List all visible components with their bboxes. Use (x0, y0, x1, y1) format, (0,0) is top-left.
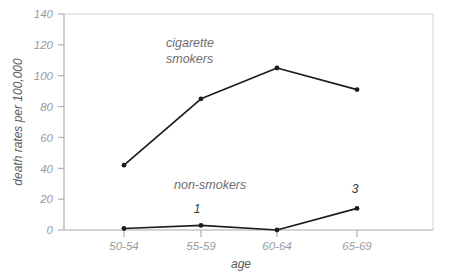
non-smokers-point-50-54 (122, 226, 127, 231)
line-chart-canvas: 0 20 40 60 80 100 120 140 50-54 55-59 60… (0, 0, 450, 279)
x-axis-ticks: 50-54 55-59 60-64 65-69 (109, 230, 372, 252)
y-tick-label-120: 120 (34, 39, 54, 51)
series-annotations: cigarette smokers non-smokers 1 3 (166, 36, 359, 216)
y-tick-label-0: 0 (47, 224, 54, 236)
y-tick-label-140: 140 (34, 8, 54, 20)
non-smokers-line (124, 208, 357, 230)
cigarette-smokers-label-line1: cigarette (166, 36, 214, 50)
y-tick-label-60: 60 (40, 132, 53, 144)
cigarette-smokers-point-50-54 (122, 163, 127, 168)
non-smokers-point-55-59 (199, 223, 204, 228)
y-axis-title: death rates per 100,000 (11, 58, 25, 186)
y-tick-label-20: 20 (39, 193, 53, 205)
series-non-smokers (122, 206, 360, 232)
axes (64, 14, 433, 230)
plot-frame (64, 14, 433, 230)
non-smokers-value-label-65-69: 3 (352, 182, 359, 196)
x-tick-label-55-59: 55-59 (186, 240, 216, 252)
non-smokers-label: non-smokers (174, 178, 246, 192)
x-tick-label-60-64: 60-64 (262, 240, 291, 252)
cigarette-smokers-line (124, 68, 357, 165)
y-axis-ticks: 0 20 40 60 80 100 120 140 (34, 8, 64, 236)
x-axis-title: age (231, 257, 251, 271)
series-cigarette-smokers (122, 66, 360, 168)
y-tick-label-40: 40 (40, 163, 53, 175)
cigarette-smokers-point-55-59 (199, 96, 204, 101)
chart-figure: 0 20 40 60 80 100 120 140 50-54 55-59 60… (0, 0, 450, 279)
cigarette-smokers-point-60-64 (275, 66, 280, 71)
y-tick-label-80: 80 (40, 101, 53, 113)
y-tick-label-100: 100 (34, 70, 54, 82)
non-smokers-value-label-55-59: 1 (194, 202, 201, 216)
cigarette-smokers-point-65-69 (355, 87, 360, 92)
non-smokers-point-60-64 (275, 228, 280, 233)
non-smokers-point-65-69 (355, 206, 360, 211)
x-tick-label-50-54: 50-54 (109, 240, 138, 252)
cigarette-smokers-label-line2: smokers (166, 52, 213, 66)
x-tick-label-65-69: 65-69 (342, 240, 372, 252)
